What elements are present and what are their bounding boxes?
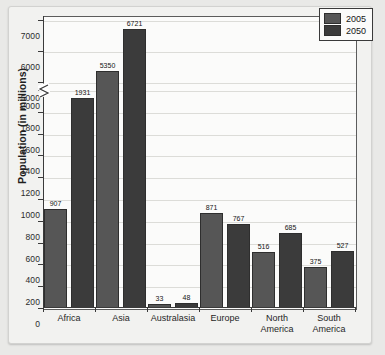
legend-swatch-2005 [324,13,341,24]
bar-series-container: 9071931535067213348871767516685375527 [43,16,355,308]
bar-2050[interactable] [279,233,302,308]
bar-group: 9071931 [43,16,95,308]
bar-2005[interactable] [304,267,327,308]
bar-2050[interactable] [331,251,354,308]
y-tick-label: 1600 [21,145,40,155]
bar-2050[interactable] [227,224,250,308]
bar-2005[interactable] [252,252,275,308]
bar-value-label: 907 [50,200,62,207]
y-tick-label: 0 [35,319,40,329]
x-tick [303,307,304,312]
bar-group: 3348 [147,16,199,308]
bar-value-label: 5350 [100,62,116,69]
bar-group: 53506721 [95,16,147,308]
y-axis-tick-labels: 0200400600800100012001400160018002000500… [0,16,40,308]
bar-value-label: 1931 [75,89,91,96]
bar-2005[interactable] [44,209,67,308]
legend-label-2005: 2005 [346,14,366,24]
y-tick-label: 1400 [21,166,40,176]
y-tick-label: 1000 [21,210,40,220]
y-tick-label: 6000 [21,62,40,72]
y-tick-label: 600 [26,254,40,264]
bar-2050[interactable] [71,98,94,308]
bar-group: 516685 [251,16,303,308]
bar-2005[interactable] [200,213,223,308]
y-tick-label: 7000 [21,31,40,41]
bar-value-label: 685 [285,224,297,231]
y-tick-label: 800 [26,232,40,242]
x-category-label: Africa [43,313,95,347]
chart-screenshot: Population (in millions) 020040060080010… [0,0,385,355]
bar-value-label: 516 [258,243,270,250]
bar-value-label: 6721 [127,20,143,27]
x-tick [95,307,96,312]
y-tick-label: 200 [26,297,40,307]
x-tick [43,307,44,312]
bar-group: 375527 [303,16,355,308]
bar-value-label: 375 [310,258,322,265]
legend-label-2050: 2050 [346,26,366,36]
bar-value-label: 48 [183,294,191,301]
bar-group: 871767 [199,16,251,308]
bar-value-label: 871 [206,204,218,211]
chart-legend[interactable]: 2005 2050 [319,8,373,41]
bar-value-label: 767 [233,215,245,222]
x-tick [355,307,356,312]
x-category-label: Asia [95,313,147,347]
bar-value-label: 33 [156,295,164,302]
x-axis-category-labels: AfricaAsiaAustralasiaEuropeNorthAmericaS… [43,313,355,347]
y-tick-label: 1200 [21,188,40,198]
legend-item-2005[interactable]: 2005 [324,13,366,24]
bar-2050[interactable] [123,29,146,308]
legend-item-2050[interactable]: 2050 [324,25,366,36]
y-tick-label: 1800 [21,123,40,133]
x-category-label: SouthAmerica [303,313,355,347]
x-tick [199,307,200,312]
y-tick-label: 400 [26,275,40,285]
bar-value-label: 527 [337,242,349,249]
x-tick [251,307,252,312]
bar-2005[interactable] [96,71,119,308]
x-category-label: Europe [199,313,251,347]
legend-swatch-2050 [324,25,341,36]
x-tick [147,307,148,312]
x-category-label: Australasia [147,313,199,347]
x-category-label: NorthAmerica [251,313,303,347]
